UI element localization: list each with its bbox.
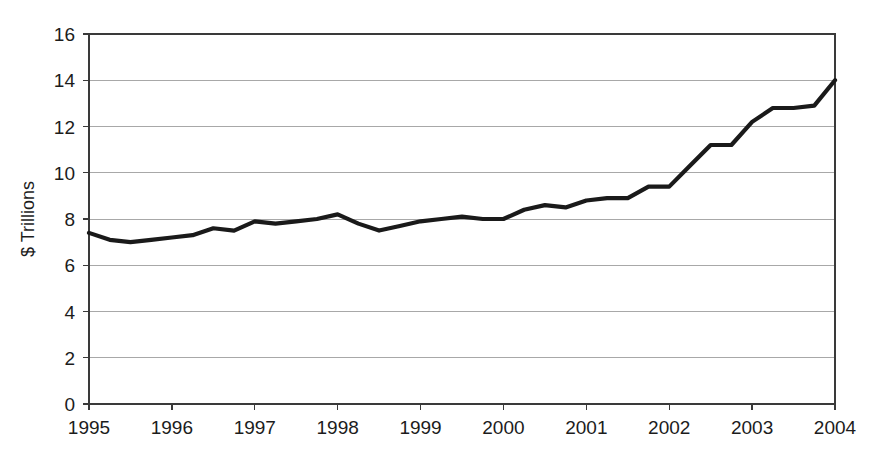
x-tick-label: 2003 bbox=[731, 417, 773, 438]
y-tick-label: 6 bbox=[64, 255, 75, 276]
chart-container: 0246810121416 19951996199719981999200020… bbox=[0, 0, 886, 460]
y-tick-label: 14 bbox=[54, 70, 76, 91]
y-tick-label: 4 bbox=[64, 302, 75, 323]
y-tick-label: 8 bbox=[64, 209, 75, 230]
x-tick-label: 2001 bbox=[565, 417, 607, 438]
x-tick-label: 1999 bbox=[399, 417, 441, 438]
y-tick-label: 16 bbox=[54, 24, 75, 45]
x-tick-label: 2004 bbox=[814, 417, 857, 438]
x-tick-label: 2000 bbox=[482, 417, 524, 438]
y-tick-label: 2 bbox=[64, 348, 75, 369]
line-chart: 0246810121416 19951996199719981999200020… bbox=[0, 0, 886, 460]
chart-background bbox=[0, 0, 886, 460]
x-tick-label: 1997 bbox=[234, 417, 276, 438]
x-tick-label: 1995 bbox=[68, 417, 110, 438]
y-axis-title: $ Trillions bbox=[18, 181, 38, 257]
y-tick-label: 10 bbox=[54, 163, 75, 184]
y-tick-label: 0 bbox=[64, 394, 75, 415]
y-tick-label: 12 bbox=[54, 117, 75, 138]
x-tick-label: 2002 bbox=[648, 417, 690, 438]
x-tick-label: 1996 bbox=[151, 417, 193, 438]
x-tick-label: 1998 bbox=[317, 417, 359, 438]
